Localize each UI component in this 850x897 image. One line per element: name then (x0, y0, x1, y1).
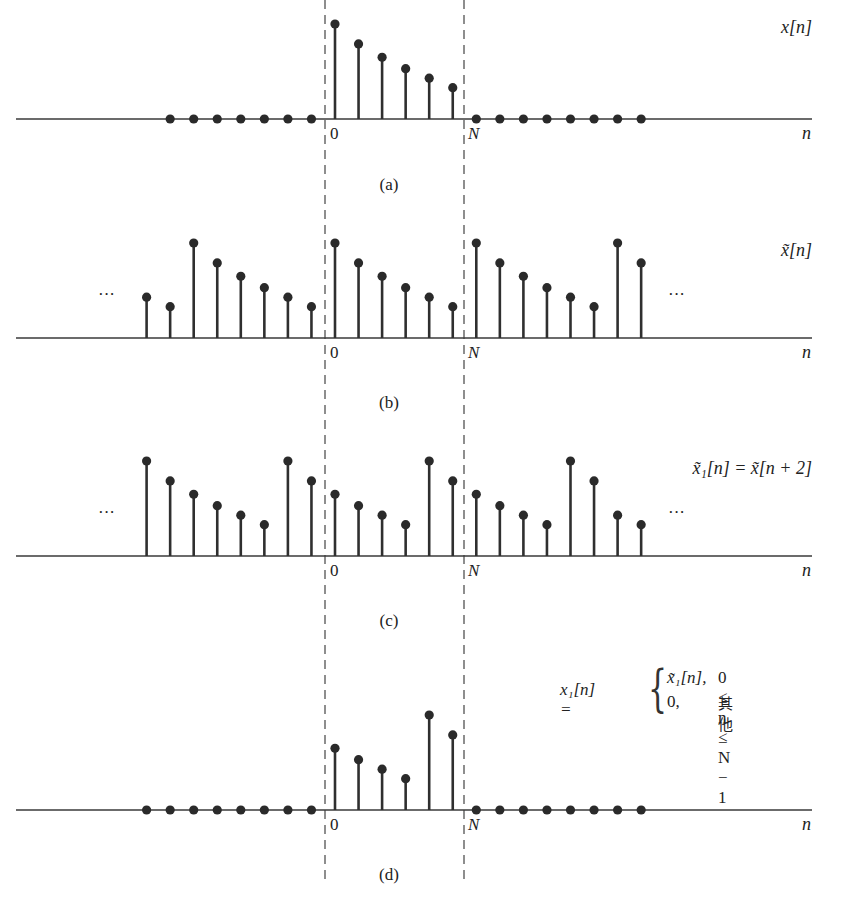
stem-marker (519, 511, 528, 520)
zero-sample-marker (589, 805, 598, 814)
stem-marker (283, 456, 292, 465)
stem-marker (283, 293, 292, 302)
zero-sample-marker (166, 805, 175, 814)
stem-marker (495, 501, 504, 510)
zero-sample-marker (260, 805, 269, 814)
stem-marker (613, 238, 622, 247)
piecewise-brace: { (648, 664, 667, 714)
signal-label-b: x̃[n] (780, 240, 812, 260)
zero-sample-marker (236, 805, 245, 814)
stem-marker (378, 53, 387, 62)
stem-marker (425, 74, 434, 83)
piecewise-case2-condition: 其他 (718, 692, 733, 734)
stem-marker (260, 283, 269, 292)
zero-sample-marker (472, 805, 481, 814)
stem-marker (189, 238, 198, 247)
stem-marker (472, 490, 481, 499)
signal-label-c: x̃₁[n] = x̃[n + 2] (691, 458, 812, 478)
axis-label-n: n (802, 560, 811, 580)
zero-sample-marker (542, 805, 551, 814)
zero-sample-marker (519, 805, 528, 814)
stem-marker (542, 520, 551, 529)
stem-marker (307, 476, 316, 485)
stem-marker (354, 258, 363, 267)
stem-marker (307, 302, 316, 311)
panel-caption-c: (c) (380, 611, 399, 630)
zero-sample-marker (260, 114, 269, 123)
stem-marker (401, 774, 410, 783)
tick-label-period: N (467, 343, 481, 362)
zero-sample-marker (189, 805, 198, 814)
zero-sample-marker (213, 114, 222, 123)
stem-marker (260, 520, 269, 529)
stem-marker (166, 302, 175, 311)
stem-marker (566, 456, 575, 465)
tick-label-period: N (467, 815, 481, 834)
panel-caption-b: (b) (379, 393, 399, 412)
tick-label-origin: 0 (330, 561, 339, 580)
stem-marker (330, 19, 339, 28)
axis-label-n: n (802, 123, 811, 143)
stem-marker (448, 476, 457, 485)
zero-sample-marker (542, 114, 551, 123)
piecewise-case2-value: 0, (667, 692, 680, 712)
stem-marker (425, 456, 434, 465)
zero-sample-marker (166, 114, 175, 123)
tick-label-origin: 0 (330, 124, 339, 143)
zero-sample-marker (236, 114, 245, 123)
stem-marker (213, 501, 222, 510)
zero-sample-marker (519, 114, 528, 123)
stem-marker (519, 272, 528, 281)
zero-sample-marker (495, 114, 504, 123)
stem-marker (236, 272, 245, 281)
zero-sample-marker (283, 114, 292, 123)
stem-marker (142, 293, 151, 302)
axis-label-n: n (802, 814, 811, 834)
piecewise-case1-value: x̃₁[n], (667, 668, 706, 688)
stem-marker (166, 476, 175, 485)
stem-marker (330, 490, 339, 499)
zero-sample-marker (566, 805, 575, 814)
zero-sample-marker (189, 114, 198, 123)
zero-sample-marker (283, 805, 292, 814)
panel-b: 0Nnx̃[n]······(b) (16, 238, 812, 412)
zero-sample-marker (589, 114, 598, 123)
tick-label-origin: 0 (330, 815, 339, 834)
ellipsis-right: ··· (668, 285, 685, 304)
stem-marker (236, 511, 245, 520)
stem-marker (354, 39, 363, 48)
stem-marker (354, 755, 363, 764)
panel-a: 0Nnx[n](a) (16, 17, 812, 194)
stem-marker (613, 511, 622, 520)
zero-sample-marker (142, 805, 151, 814)
stem-marker (330, 744, 339, 753)
zero-sample-marker (637, 114, 646, 123)
zero-sample-marker (213, 805, 222, 814)
stem-marker (566, 293, 575, 302)
panel-d: 0Nn(d) (16, 710, 812, 884)
stem-marker (448, 730, 457, 739)
ellipsis-left: ··· (98, 503, 115, 522)
zero-sample-marker (566, 114, 575, 123)
axis-label-n: n (802, 342, 811, 362)
panel-c: 0Nnx̃₁[n] = x̃[n + 2]······(c) (16, 456, 812, 630)
stem-marker (401, 283, 410, 292)
zero-sample-marker (307, 805, 316, 814)
stem-marker (589, 476, 598, 485)
signal-label-a: x[n] (780, 17, 812, 37)
panel-caption-a: (a) (380, 175, 399, 194)
stem-marker (425, 293, 434, 302)
stem-marker (401, 520, 410, 529)
stem-marker (448, 302, 457, 311)
stem-marker (378, 511, 387, 520)
stem-marker (378, 765, 387, 774)
zero-sample-marker (495, 805, 504, 814)
zero-sample-marker (637, 805, 646, 814)
stem-marker (401, 64, 410, 73)
tick-label-origin: 0 (330, 343, 339, 362)
stem-marker (425, 710, 434, 719)
ellipsis-left: ··· (98, 285, 115, 304)
stem-marker (213, 258, 222, 267)
stem-marker (637, 258, 646, 267)
panel-caption-d: (d) (379, 865, 399, 884)
